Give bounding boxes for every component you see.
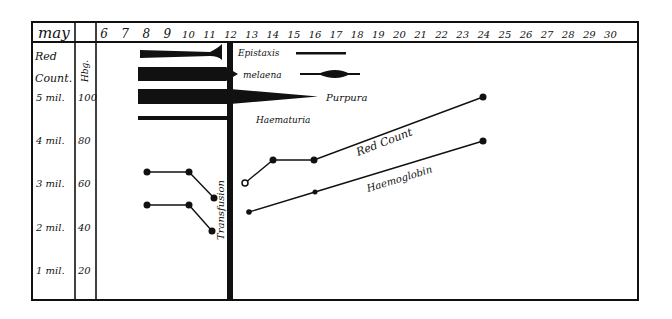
month-label: may	[38, 24, 70, 42]
haemoglobin-points	[144, 138, 487, 235]
red-count-series	[147, 97, 483, 198]
red-count-tick: 2 mil.	[35, 222, 65, 233]
chart-frame	[32, 22, 638, 300]
day-label: 8	[142, 27, 150, 41]
red-count-axis-title-2: Count.	[35, 72, 72, 85]
y-axis-ticks: 5 mil.1004 mil.803 mil.602 mil.401 mil.2…	[35, 92, 98, 276]
day-label: 6	[100, 27, 108, 41]
day-label: 29	[582, 29, 596, 40]
red-count-axis-title-1: Red	[34, 50, 57, 63]
day-label: 12	[224, 29, 237, 40]
epistaxis-label: Epistaxis	[237, 48, 280, 58]
red-count-tick: 5 mil.	[36, 92, 65, 103]
hb-tick: 20	[77, 265, 91, 276]
transfusion-bar	[227, 42, 233, 300]
day-label: 17	[330, 29, 343, 40]
melaena-tail	[300, 70, 360, 78]
haematuria-bar	[138, 116, 230, 120]
hb-axis-title: Hbg.	[80, 60, 90, 83]
day-label: 21	[413, 29, 427, 40]
hb-tick: 80	[78, 135, 91, 146]
day-label: 23	[455, 29, 469, 40]
day-label: 15	[288, 29, 301, 40]
haemoglobin-series	[147, 141, 483, 231]
day-label: 13	[245, 29, 258, 40]
clinical-chart: may 678910111213141516171819202122232425…	[0, 0, 672, 319]
day-label: 24	[476, 29, 490, 40]
red-count-tick: 3 mil.	[36, 178, 65, 189]
epistaxis-tail	[296, 52, 346, 55]
red-count-points	[144, 94, 487, 202]
day-label: 11	[203, 29, 216, 40]
hb-tick: 100	[78, 92, 98, 103]
day-label: 20	[392, 29, 406, 40]
day-label: 30	[604, 29, 617, 40]
day-axis-labels: 6789101112131415161718192021222324252627…	[100, 27, 617, 41]
epistaxis-bar	[140, 44, 222, 60]
haemoglobin-line-label: Haemoglobin	[364, 164, 433, 195]
day-label: 28	[561, 29, 575, 40]
day-label: 19	[372, 29, 385, 40]
day-label: 10	[182, 29, 195, 40]
day-label: 9	[163, 27, 171, 41]
red-count-tick: 1 mil.	[36, 265, 65, 276]
day-label: 16	[309, 29, 322, 40]
hb-tick: 40	[77, 222, 91, 233]
day-label: 14	[266, 29, 279, 40]
hb-tick: 60	[78, 178, 91, 189]
haematuria-label: Haematuria	[255, 115, 310, 125]
melaena-label: melaena	[243, 70, 282, 80]
day-label: 22	[434, 29, 448, 40]
day-label: 27	[540, 29, 554, 40]
day-label: 26	[519, 29, 533, 40]
day-label: 25	[498, 29, 512, 40]
transfusion-label: Transfusion	[215, 180, 226, 240]
purpura-label: Purpura	[325, 92, 368, 103]
day-label: 7	[121, 27, 129, 41]
red-count-tick: 4 mil.	[35, 135, 65, 146]
day-label: 18	[351, 29, 364, 40]
melaena-bar	[138, 67, 238, 81]
